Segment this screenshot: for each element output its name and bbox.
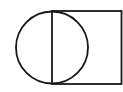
diagram-canvas (0, 0, 123, 92)
